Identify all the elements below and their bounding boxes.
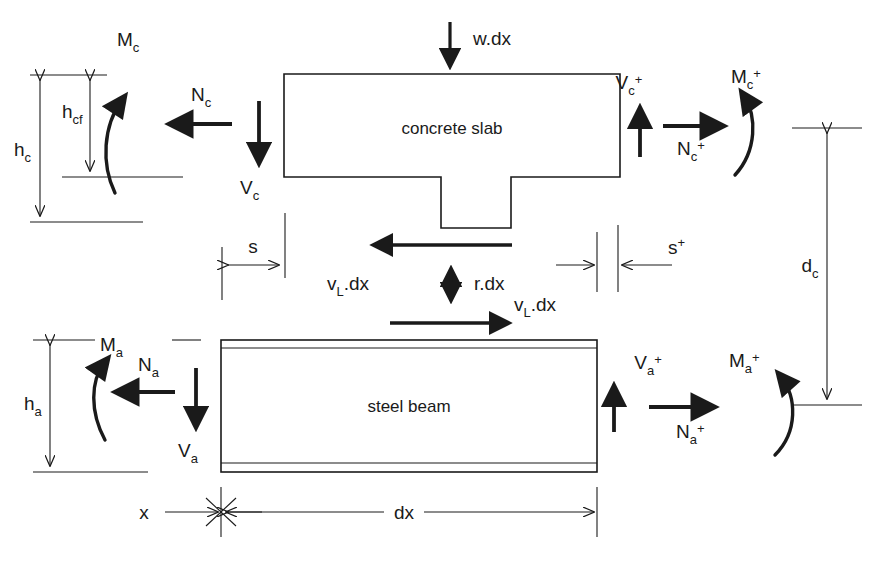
slab-moment-left-arrow [106, 100, 122, 193]
beam-moment-right-label: Ma+ [729, 350, 760, 376]
beam-moment-left-label: Ma [100, 334, 124, 360]
dimension-h-a-label: ha [24, 393, 43, 419]
dimension-h-a [33, 345, 148, 472]
dimension-x-label: x [139, 502, 149, 523]
dimension-dx-label: dx [394, 502, 415, 523]
dimension-s-plus-label: s+ [668, 235, 685, 258]
load-w-dx-label: w.dx [472, 28, 512, 49]
composite-beam-free-body-diagram: concrete slab steel beam w.dx Mc Nc Vc V… [0, 0, 880, 567]
slab-moment-left-label: Mc [117, 29, 140, 55]
interface-uplift-label: r.dx [474, 273, 505, 294]
interface-shear-bottom-label: vL.dx [514, 294, 557, 320]
slab-moment-right-arrow [735, 96, 753, 175]
beam-normal-left-label: Na [138, 354, 160, 380]
concrete-slab-outline [284, 74, 620, 228]
beam-shear-right-label: Va+ [634, 352, 662, 378]
beam-moment-right-arrow [775, 377, 793, 455]
dimension-h-cf [62, 80, 183, 177]
dimension-x-and-dx [165, 487, 597, 537]
beam-moment-left-arrow [94, 362, 105, 440]
steel-beam-label: steel beam [367, 397, 450, 416]
concrete-slab-label: concrete slab [401, 119, 502, 138]
slab-normal-right-label: Nc+ [677, 138, 705, 164]
dimension-h-cf-label: hcf [62, 101, 83, 127]
slab-normal-left-label: Nc [191, 84, 212, 110]
interface-shear-top-label: vL.dx [327, 273, 370, 299]
dimension-s-plus [556, 225, 672, 292]
dimension-h-c-label: hc [14, 139, 32, 165]
dimension-d-c-label: dc [801, 255, 819, 281]
dimension-h-c [30, 75, 143, 222]
diagram-canvas: concrete slab steel beam w.dx Mc Nc Vc V… [0, 0, 880, 567]
dimension-s-label: s [248, 236, 258, 257]
beam-shear-left-label: Va [178, 440, 199, 466]
slab-moment-right-label: Mc+ [731, 66, 761, 92]
beam-normal-right-label: Na+ [676, 421, 705, 447]
slab-shear-left-label: Vc [240, 177, 260, 203]
